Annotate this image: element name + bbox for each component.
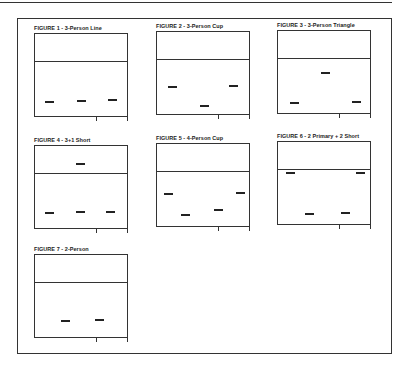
center-tick xyxy=(339,225,340,229)
center-tick xyxy=(96,117,97,121)
edge-tick xyxy=(127,229,128,233)
frame-divider xyxy=(278,58,370,59)
position-mark xyxy=(236,192,245,194)
frame-divider xyxy=(35,173,127,174)
frame-divider xyxy=(157,171,249,172)
position-mark xyxy=(164,193,173,195)
position-mark xyxy=(76,163,85,165)
position-mark xyxy=(106,211,115,213)
figure-title: FIGURE 3 - 3-Person Triangle xyxy=(277,22,355,28)
position-mark xyxy=(45,101,54,103)
edge-tick xyxy=(249,227,250,231)
edge-tick xyxy=(249,115,250,119)
center-tick xyxy=(96,338,97,342)
figure-frame xyxy=(277,141,371,225)
figure-title: FIGURE 2 - 3-Person Cup xyxy=(156,23,223,29)
position-mark xyxy=(181,214,190,216)
figure-title: FIGURE 6 - 2 Primary + 2 Short xyxy=(277,133,359,139)
top-rule xyxy=(0,2,392,3)
position-mark xyxy=(290,102,299,104)
frame-divider xyxy=(35,61,127,62)
figure-title: FIGURE 4 - 3+1 Short xyxy=(34,137,90,143)
position-mark xyxy=(61,320,70,322)
edge-tick xyxy=(370,114,371,118)
center-tick xyxy=(96,229,97,233)
figure-frame xyxy=(34,254,128,338)
figure-title: FIGURE 7 - 2-Person xyxy=(34,246,89,252)
position-mark xyxy=(45,212,54,214)
position-mark xyxy=(95,319,104,321)
figure-frame xyxy=(34,33,128,117)
position-mark xyxy=(352,101,361,103)
position-mark xyxy=(321,72,330,74)
position-mark xyxy=(229,85,238,87)
position-mark xyxy=(168,86,177,88)
figure-frame xyxy=(156,143,250,227)
position-mark xyxy=(77,100,86,102)
edge-tick xyxy=(127,338,128,342)
position-mark xyxy=(214,209,223,211)
figure-frame xyxy=(277,30,371,114)
edge-tick xyxy=(370,225,371,229)
center-tick xyxy=(218,227,219,231)
center-tick xyxy=(218,115,219,119)
position-mark xyxy=(286,172,295,174)
center-tick xyxy=(339,114,340,118)
position-mark xyxy=(341,212,350,214)
position-mark xyxy=(108,99,117,101)
frame-divider xyxy=(157,59,249,60)
edge-tick xyxy=(127,117,128,121)
figure-frame xyxy=(34,145,128,229)
figure-frame xyxy=(156,31,250,115)
position-mark xyxy=(356,172,365,174)
frame-divider xyxy=(35,282,127,283)
position-mark xyxy=(200,105,209,107)
position-mark xyxy=(76,211,85,213)
figure-title: FIGURE 5 - 4-Person Cup xyxy=(156,135,223,141)
figure-title: FIGURE 1 - 3-Person Line xyxy=(34,25,102,31)
position-mark xyxy=(305,213,314,215)
frame-divider xyxy=(278,169,370,170)
